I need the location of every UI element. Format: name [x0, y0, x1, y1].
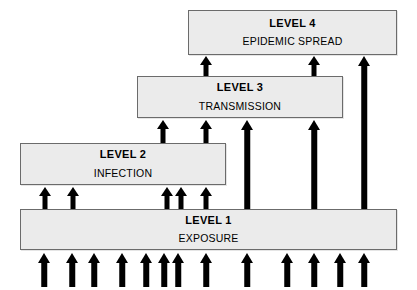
arrow-shaft — [361, 262, 367, 287]
flow-arrow-up-icon — [87, 253, 101, 287]
flow-arrow-up-icon — [139, 253, 153, 287]
level-3-title: LEVEL 3 — [217, 81, 264, 95]
flow-arrow-up-icon — [199, 253, 213, 287]
box-level-3: LEVEL 3TRANSMISSION — [137, 76, 343, 118]
level-1-title: LEVEL 1 — [185, 214, 232, 228]
level-3-subtitle: TRANSMISSION — [199, 100, 281, 113]
flow-arrow-up-icon — [357, 56, 371, 209]
flow-arrow-up-icon — [333, 253, 347, 287]
arrow-shaft — [43, 195, 48, 209]
flow-arrow-up-icon — [307, 120, 321, 209]
flow-arrow-up-icon — [115, 253, 129, 287]
arrow-shaft — [337, 262, 343, 287]
flow-arrow-up-icon — [308, 56, 321, 76]
level-4-title: LEVEL 4 — [269, 17, 316, 31]
arrow-shaft — [311, 262, 317, 287]
flow-arrow-up-icon — [39, 187, 52, 209]
diagram-canvas: LEVEL 4EPIDEMIC SPREADLEVEL 3TRANSMISSIO… — [0, 0, 417, 290]
box-level-1: LEVEL 1EXPOSURE — [20, 209, 397, 250]
arrow-shaft — [165, 195, 170, 209]
flow-arrow-up-icon — [357, 253, 371, 287]
arrow-shaft — [91, 262, 97, 287]
arrow-shaft — [69, 262, 75, 287]
level-2-title: LEVEL 2 — [100, 148, 147, 162]
flow-arrow-up-icon — [200, 56, 213, 76]
arrow-shaft — [311, 129, 317, 209]
arrow-shaft — [361, 65, 367, 209]
flow-arrow-up-icon — [65, 253, 79, 287]
flow-arrow-up-icon — [157, 253, 171, 287]
flow-arrow-up-icon — [171, 253, 185, 287]
arrow-shaft — [204, 128, 209, 143]
arrow-shaft — [175, 262, 181, 287]
arrow-shaft — [119, 262, 125, 287]
flow-arrow-up-icon — [240, 253, 254, 287]
arrow-shaft — [312, 64, 317, 76]
flow-arrow-up-icon — [37, 253, 51, 287]
box-level-4: LEVEL 4EPIDEMIC SPREAD — [188, 10, 397, 55]
level-1-subtitle: EXPOSURE — [179, 232, 239, 245]
arrow-shaft — [203, 262, 209, 287]
flow-arrow-up-icon — [161, 187, 174, 209]
box-level-2: LEVEL 2INFECTION — [20, 143, 226, 185]
arrow-shaft — [161, 262, 167, 287]
arrow-shaft — [204, 195, 209, 209]
flow-arrow-up-icon — [200, 187, 213, 209]
arrow-shaft — [204, 64, 209, 76]
flow-arrow-up-icon — [280, 253, 294, 287]
flow-arrow-up-icon — [240, 120, 254, 209]
flow-arrow-up-icon — [307, 253, 321, 287]
arrow-shaft — [244, 262, 250, 287]
arrow-shaft — [244, 129, 250, 209]
level-2-subtitle: INFECTION — [94, 167, 152, 180]
arrow-shaft — [179, 195, 184, 209]
flow-arrow-up-icon — [200, 120, 213, 143]
arrow-shaft — [41, 262, 47, 287]
arrow-shaft — [71, 195, 76, 209]
flow-arrow-up-icon — [157, 120, 170, 143]
arrow-shaft — [161, 128, 166, 143]
arrow-shaft — [284, 262, 290, 287]
flow-arrow-up-icon — [67, 187, 80, 209]
arrow-shaft — [143, 262, 149, 287]
level-4-subtitle: EPIDEMIC SPREAD — [243, 35, 343, 48]
flow-arrow-up-icon — [175, 187, 188, 209]
